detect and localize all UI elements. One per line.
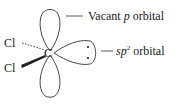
sp2-orbital-lobe	[54, 41, 96, 65]
carbon-atom-label: C	[44, 47, 53, 59]
sp2-orbital-label: sp2 orbital	[116, 45, 165, 57]
label-text: orbital	[130, 9, 164, 23]
lone-pair-dot	[87, 46, 89, 48]
chlorine-atom-label-upper: Cl	[4, 37, 15, 49]
label-italic-sp: sp	[116, 44, 127, 58]
lone-pair-dot	[87, 57, 89, 59]
dashed-bond	[22, 43, 45, 50]
chlorine-atom-label-lower: Cl	[4, 62, 15, 74]
label-text: orbital	[130, 44, 164, 58]
p-orbital-bottom-lobe	[40, 55, 60, 97]
label-text: Vacant	[88, 9, 124, 23]
wedge-bond	[21, 55, 46, 68]
vacant-p-orbital-label: Vacant p orbital	[88, 10, 164, 22]
